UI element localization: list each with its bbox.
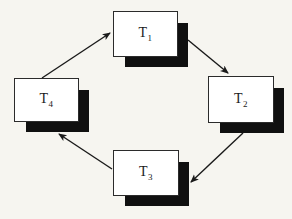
- node-t4: T4: [14, 78, 77, 120]
- node-t2-label-sub: 2: [243, 98, 248, 108]
- cycle-diagram: T1 T2 T3 T4: [0, 0, 292, 219]
- node-t2-label: T2: [234, 91, 248, 109]
- node-t3-label-base: T: [139, 164, 148, 179]
- node-t4-box: T4: [14, 78, 79, 122]
- arrow-t1-to-t2: [188, 40, 228, 73]
- arrow-t3-to-t4: [59, 134, 112, 169]
- node-t2-box: T2: [208, 76, 274, 123]
- node-t4-label-base: T: [39, 91, 48, 106]
- node-t4-label: T4: [39, 91, 53, 109]
- node-t3-label-sub: 3: [148, 172, 153, 182]
- node-t2: T2: [208, 76, 272, 121]
- node-t1-label-sub: 1: [148, 33, 153, 43]
- node-t1-label-base: T: [138, 25, 147, 40]
- arrow-t4-to-t1: [42, 33, 110, 78]
- node-t2-label-base: T: [234, 91, 243, 106]
- node-t4-label-sub: 4: [49, 99, 54, 109]
- node-t1-box: T1: [113, 11, 178, 57]
- node-t3-label: T3: [139, 164, 153, 182]
- arrow-t2-to-t3: [191, 133, 243, 182]
- node-t1: T1: [113, 11, 176, 55]
- node-t1-label: T1: [138, 25, 152, 43]
- node-t3-box: T3: [113, 150, 179, 196]
- node-t3: T3: [113, 150, 177, 194]
